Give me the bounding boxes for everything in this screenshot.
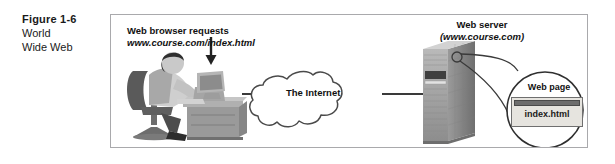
window-titlebar xyxy=(514,100,580,106)
server-label-url: (www.course.com) xyxy=(417,31,547,43)
web-page-callout-label: Web page xyxy=(517,81,581,93)
figure-title-line-2: Wide Web xyxy=(22,40,102,54)
figure-frame: Web browser requests www.course.com/inde… xyxy=(110,14,588,148)
web-page-filename: index.html xyxy=(514,108,580,120)
server-tower-illustration xyxy=(423,41,475,144)
web-page-window: index.html xyxy=(511,97,583,127)
figure-stage: Web browser requests www.course.com/inde… xyxy=(111,15,587,147)
client-request-url: www.course.com/index.html xyxy=(127,37,255,49)
server-label: Web server (www.course.com) xyxy=(417,19,547,43)
client-request-label: Web browser requests www.course.com/inde… xyxy=(127,25,255,49)
internet-label: The Internet xyxy=(286,87,340,99)
client-request-line1: Web browser requests xyxy=(127,25,255,37)
figure-title-line-1: World xyxy=(22,26,102,40)
person-at-desk-illustration xyxy=(127,52,247,141)
server-label-line1: Web server xyxy=(417,19,547,31)
figure-caption: Figure 1-6 World Wide Web xyxy=(22,12,102,54)
internet-cloud-shape xyxy=(250,72,342,127)
figure-number: Figure 1-6 xyxy=(22,12,102,26)
